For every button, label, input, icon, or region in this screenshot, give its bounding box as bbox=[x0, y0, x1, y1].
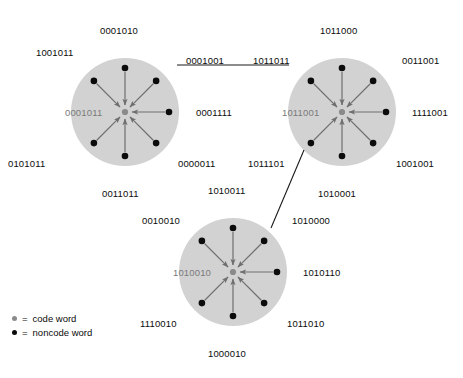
code-word-dot bbox=[339, 109, 345, 115]
noncode-word-dot bbox=[153, 78, 160, 85]
noncode-word-label: 1111001 bbox=[412, 107, 448, 118]
noncode-word-dot bbox=[370, 140, 377, 147]
inter-sphere-links-layer bbox=[177, 65, 304, 228]
noncode-word-label: 1000010 bbox=[208, 348, 246, 359]
noncode-word-label: 1011000 bbox=[320, 25, 357, 36]
figure-canvas: 0001011000101000010010001111000001100110… bbox=[0, 0, 463, 378]
code-word-label: 1010010 bbox=[173, 267, 211, 278]
noncode-word-label: 0001010 bbox=[100, 25, 138, 36]
noncode-word-label: 1010110 bbox=[303, 267, 340, 278]
legend-equals-sign: = bbox=[22, 327, 28, 338]
noncode-word-dot bbox=[339, 153, 346, 160]
code-word-label: 0001011 bbox=[65, 107, 102, 118]
noncode-word-dot bbox=[166, 109, 173, 116]
noncode-word-label: 0011001 bbox=[402, 55, 439, 66]
noncode-word-dot bbox=[339, 65, 346, 72]
noncode-word-label: 1010000 bbox=[292, 215, 330, 226]
noncode-word-label: 0101011 bbox=[8, 158, 45, 169]
code-word-dot bbox=[230, 269, 236, 275]
noncode-word-label: 1001011 bbox=[36, 47, 73, 58]
noncode-word-label: 0010010 bbox=[142, 215, 180, 226]
noncode-word-label: 1010001 bbox=[318, 188, 356, 199]
noncode-word-dot bbox=[383, 109, 390, 116]
noncode-word-dot bbox=[261, 238, 268, 245]
noncode-word-dot-icon bbox=[12, 330, 17, 335]
noncode-word-label: 1011010 bbox=[287, 318, 324, 329]
noncode-word-dot bbox=[122, 153, 129, 160]
legend-item-code-word: = code word bbox=[12, 313, 76, 324]
noncode-word-label: 0001111 bbox=[196, 107, 232, 118]
noncode-word-dot bbox=[91, 140, 98, 147]
noncode-word-label: 0011011 bbox=[102, 188, 139, 199]
noncode-word-dot bbox=[199, 300, 206, 307]
noncode-word-label: 0001001 bbox=[186, 55, 224, 66]
legend-item-noncode-word: = noncode word bbox=[12, 327, 92, 338]
noncode-word-label: 1110010 bbox=[140, 318, 177, 329]
noncode-word-label: 1001001 bbox=[396, 158, 434, 169]
noncode-word-label: 1011011 bbox=[253, 55, 290, 66]
noncode-word-dot bbox=[308, 140, 315, 147]
noncode-word-label: 0000011 bbox=[178, 158, 215, 169]
code-word-dot-icon bbox=[12, 316, 17, 321]
noncode-word-dot bbox=[308, 78, 315, 85]
code-word-dot bbox=[122, 109, 128, 115]
noncode-word-dot bbox=[370, 78, 377, 85]
noncode-word-dot bbox=[230, 225, 237, 232]
noncode-word-label: 1011101 bbox=[248, 158, 285, 169]
noncode-word-dot bbox=[261, 300, 268, 307]
noncode-word-label: 1010011 bbox=[208, 185, 245, 196]
code-word-label: 1011001 bbox=[282, 107, 319, 118]
noncode-word-dot bbox=[274, 269, 281, 276]
legend-label-code-word: code word bbox=[33, 313, 77, 324]
legend-equals-sign: = bbox=[22, 313, 28, 324]
legend-label-noncode-word: noncode word bbox=[33, 327, 93, 338]
noncode-word-dot bbox=[199, 238, 206, 245]
noncode-word-dot bbox=[230, 313, 237, 320]
noncode-word-dot bbox=[91, 78, 98, 85]
noncode-word-dot bbox=[153, 140, 160, 147]
noncode-word-dot bbox=[122, 65, 129, 72]
